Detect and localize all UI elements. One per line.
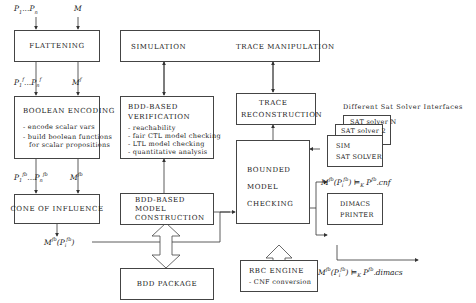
bdd-verification-title-1: BDD-BASED [128,103,178,111]
rbc-engine-box: RBC ENGINE - CNF conversion [240,260,318,292]
dimacs-line-1: DIMACS [340,200,370,209]
rbc-engine-title: RBC ENGINE [249,267,304,275]
trace-manipulation-label: TRACE MANIPULATION [236,43,335,51]
cone-of-influence-label: CONE OF INFLUENCE [10,205,103,213]
encoded-model-label: Mfb [70,171,83,182]
sat-interfaces-title: Different Sat Solver Interfaces [343,103,463,111]
bounded-model-checking-box: BOUNDED MODEL CHECKING [236,140,310,224]
bmc-line-3: CHECKING [247,200,293,208]
dimacs-printer-box: DIMACS PRINTER [327,193,383,225]
bdd-package-label: BDD PACKAGE [137,280,197,288]
trace-reconstruction-box: TRACE RECONSTRUCTION [236,93,316,125]
bdd-package-box: BDD PACKAGE [120,268,214,300]
trace-reconstruction-line-2: RECONSTRUCTION [241,111,322,119]
flattened-model-label: Mf [72,76,82,87]
bdd-verification-box: BDD-BASED VERIFICATION - reachability - … [120,96,214,159]
sim-sat-line-1: SIM [336,142,351,151]
encoding-item-1: - encode scalar vars [23,123,95,132]
sim-sat-line-2: SAT SOLVER [336,153,382,162]
bmc-line-2: MODEL [247,183,278,191]
construction-line-1: BDD-BASED [135,196,185,204]
trace-reconstruction-line-1: TRACE [259,99,287,107]
encoding-item-3: for scalar propositions [29,141,110,150]
verification-item-4: - quantitative analysis [128,148,207,157]
flattening-box: FLATTENING [14,30,100,62]
bdd-verification-title-2: VERIFICATION [128,113,190,121]
cnf-output-label: Mfb(Pifb) ⊨K Pfb.cnf [321,176,391,188]
flattened-properties-label: P1f...Pnf [14,76,41,88]
bmc-line-1: BOUNDED [247,166,291,174]
sim-sat-solver-box: SIM SAT SOLVER [327,135,383,167]
construction-line-3: CONSTRUCTION [135,214,205,222]
coi-output-label: Mfb(Pifb) [44,236,74,248]
input-model: M [74,4,82,13]
boolean-encoding-title: BOOLEAN ENCODING [23,107,115,115]
cone-of-influence-box: CONE OF INFLUENCE [14,194,100,224]
flattening-label: FLATTENING [29,42,84,50]
dimacs-line-2: PRINTER [340,211,374,220]
simulation-label: SIMULATION [131,43,186,51]
input-properties: P1...Pn [14,4,38,15]
boolean-encoding-box: BOOLEAN ENCODING - encode scalar vars - … [14,96,100,159]
rbc-engine-item: - CNF conversion [249,278,311,287]
dimacs-output-label: Mfb(Pifb) ⊨K Pfb.dimacs [318,266,403,278]
bdd-model-construction-box: BDD-BASED MODEL CONSTRUCTION [120,193,214,225]
simulation-trace-box: SIMULATION TRACE MANIPULATION [120,30,320,62]
construction-line-2: MODEL [135,205,166,213]
encoded-properties-label: P1fb...Pnfb [14,171,48,183]
